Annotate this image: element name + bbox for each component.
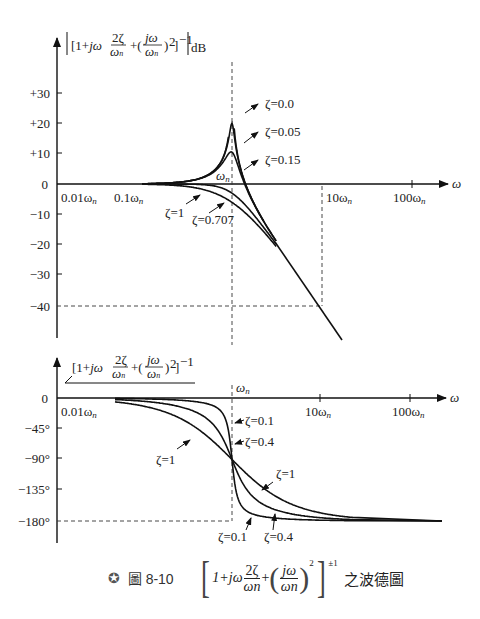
svg-text:ωn: ωn [110,44,123,59]
svg-text:ζ=0.0: ζ=0.0 [265,96,294,111]
svg-text:): ) [164,38,168,53]
svg-text:+30: +30 [30,86,50,101]
magnitude-plot: [1+jω 2ζ ωn +( jω ωn ) 2 ] −1 dB +30 +2 [30,30,462,345]
svg-text:ωn: ωn [112,366,125,381]
svg-text:jω: jω [143,30,158,45]
svg-text:[1+jω: [1+jω [72,360,103,375]
bode-plot: [1+jω 2ζ ωn +( jω ωn ) 2 ] −1 dB +30 +2 [0,0,480,619]
svg-text:0: 0 [42,177,49,192]
svg-text:): ) [165,360,169,375]
svg-text:[1+jω: [1+jω [71,38,102,53]
svg-text:100ωn: 100ωn [393,190,426,206]
svg-text:ωn: ωn [145,44,158,59]
svg-text:ωn: ωn [236,380,250,396]
phase-y-tick-labels: 0 −45° −90° −135° −180° [18,391,50,529]
svg-text:2ζ: 2ζ [115,352,128,367]
svg-text:ζ=0.15: ζ=0.15 [265,152,300,167]
svg-text:10ωn: 10ωn [305,404,332,420]
figure-number: 圖 8-10 [128,568,174,588]
magnitude-x-tick-labels: 0.01ωn 0.1ωn 10ωn 100ωn ωn [61,168,426,206]
svg-text:0.01ωn: 0.01ωn [61,404,97,420]
magnitude-x-axis-label: ω [452,176,461,191]
figure-badge-icon: ✪ [108,570,120,586]
magnitude-y-tick-labels: +30 +20 +10 0 −10 −20 −30 −40 [30,86,50,314]
svg-text:ζ=0.4: ζ=0.4 [264,529,293,544]
svg-text:jω: jω [145,352,160,367]
svg-text:ωn: ωn [147,366,160,381]
magnitude-asymptote [275,242,342,340]
svg-text:0: 0 [42,391,49,406]
figure-caption: ✪ 圖 8-10 [ 1+jω 2ζωn + ( jωωn ) 2 ] ±1 之… [0,548,480,608]
svg-text:dB: dB [191,40,207,55]
svg-text:10ωn: 10ωn [326,190,353,206]
svg-text:ωn: ωn [216,168,230,184]
svg-text:2ζ: 2ζ [112,30,125,45]
phase-curve-labels: ζ=0.1 ζ=0.4 ζ=1 ζ=1 ζ=0.1 ζ=0.4 [156,413,295,544]
svg-text:−10: −10 [30,207,50,222]
svg-text:−45°: −45° [24,421,50,436]
svg-text:ζ=0.707: ζ=0.707 [192,212,234,227]
svg-text:−90°: −90° [24,451,50,466]
phase-x-axis-label: ω [450,390,459,405]
phase-y-ticks [57,428,62,489]
svg-text:ζ=1: ζ=1 [156,452,175,467]
svg-text:ζ=1: ζ=1 [165,205,184,220]
svg-text:−40: −40 [30,299,50,314]
svg-text:−180°: −180° [18,514,50,529]
svg-text:ζ=0.1: ζ=0.1 [245,413,274,428]
svg-text:]: ] [175,360,179,375]
svg-text:ζ=0.05: ζ=0.05 [265,124,300,139]
svg-text:0.01ωn: 0.01ωn [61,190,97,206]
caption-formula: [ 1+jω 2ζωn + ( jωωn ) 2 ] ±1 [198,556,338,600]
caption-suffix: 之波德圖 [344,568,404,589]
svg-text:ζ=1: ζ=1 [276,466,295,481]
svg-text:+10: +10 [30,146,50,161]
svg-text:100ωn: 100ωn [392,404,425,420]
phase-y-axis-label: [1+jω 2ζ ωn +( jω ωn ) 2 ] −1 [65,352,195,383]
magnitude-curve-zeta-0-15 [142,152,276,241]
phase-plot: [1+jω 2ζ ωn +( jω ωn ) 2 ] −1 0 −45° −90… [18,352,459,544]
svg-text:−20: −20 [30,237,50,252]
magnitude-curve-labels: ζ=0.0 ζ=0.05 ζ=0.15 ζ=1 ζ=0.707 [165,96,300,227]
svg-text:+20: +20 [30,116,50,131]
svg-text:ζ=0.1: ζ=0.1 [218,529,247,544]
svg-text:−135°: −135° [18,482,50,497]
svg-text:]: ] [174,38,178,53]
svg-text:−30: −30 [30,267,50,282]
svg-text:+(: +( [130,38,142,53]
svg-text:ζ=0.4: ζ=0.4 [245,434,274,449]
svg-text:+(: +( [131,360,143,375]
svg-text:−1: −1 [180,354,194,369]
svg-text:0.1ωn: 0.1ωn [114,190,144,206]
magnitude-y-axis-label: [1+jω 2ζ ωn +( jω ωn ) 2 ] −1 dB [67,30,207,59]
